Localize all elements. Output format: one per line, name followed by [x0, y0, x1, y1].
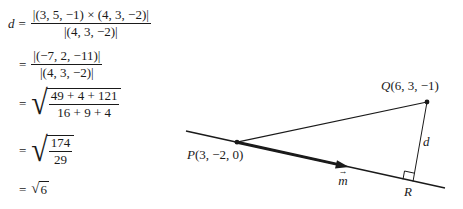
segment-pq — [237, 102, 427, 142]
point-p-label: P(3, −2, 0) — [187, 147, 243, 163]
point-r-label: R — [404, 184, 412, 200]
distance-d-label: d — [423, 134, 430, 150]
point-q-dot — [425, 100, 430, 105]
geometry-diagram — [0, 0, 463, 209]
point-q-label: Q(6, 3, −1) — [381, 78, 439, 94]
direction-vector-m — [237, 142, 340, 165]
vector-m-label: → m — [337, 168, 349, 188]
point-p-dot — [235, 140, 240, 145]
right-angle-icon — [403, 171, 415, 179]
